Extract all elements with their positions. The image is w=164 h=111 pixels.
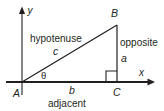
y-axis-arrowhead-icon [19, 7, 25, 15]
y-axis-label: y [27, 5, 34, 16]
vertex-label-a: A [12, 87, 20, 99]
trigonometry-triangle-figure: y x A B C θ hypotenuse c opposite a b ad… [0, 0, 164, 111]
adjacent-label: adjacent [48, 98, 86, 109]
angle-theta-label: θ [41, 70, 46, 81]
figure-canvas: y x A B C θ hypotenuse c opposite a b ad… [0, 0, 164, 111]
opposite-variable-label: a [121, 52, 127, 64]
opposite-label: opposite [120, 37, 158, 48]
x-axis [6, 79, 155, 86]
x-axis-arrowhead-icon [148, 79, 156, 86]
adjacent-variable-label: b [69, 84, 75, 96]
x-axis-label: x [138, 67, 145, 78]
hypotenuse-label: hypotenuse [30, 33, 82, 44]
vertex-label-c: C [113, 86, 121, 98]
hypotenuse-variable-label: c [53, 45, 59, 57]
right-angle-marker-icon [106, 71, 117, 82]
vertex-label-b: B [111, 7, 118, 19]
